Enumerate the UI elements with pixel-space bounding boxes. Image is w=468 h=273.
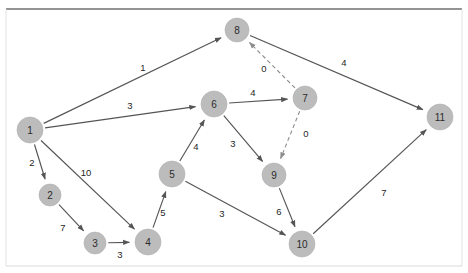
node-label-10: 10 <box>296 239 308 250</box>
node-label-5: 5 <box>169 169 175 180</box>
node-7[interactable]: 7 <box>293 86 317 110</box>
edge-weight-2-3: 7 <box>60 222 65 233</box>
edge-weight-5-10: 3 <box>219 208 224 219</box>
node-10[interactable]: 10 <box>289 231 315 257</box>
edge-1-to-4 <box>41 140 134 229</box>
edge-1-to-2 <box>34 145 45 180</box>
edge-weight-5-6: 4 <box>193 141 198 152</box>
node-label-1: 1 <box>27 125 33 136</box>
edge-weight-4-5: 5 <box>160 207 165 218</box>
edge-weight-3-4: 3 <box>117 249 122 260</box>
edge-10-to-11 <box>313 130 426 234</box>
edge-weight-9-10: 6 <box>276 206 281 217</box>
edge-weight-7-8: 0 <box>261 63 266 74</box>
node-label-3: 3 <box>92 238 98 249</box>
edge-weight-layer: 13210735434300467 <box>29 57 386 260</box>
edge-weight-1-8: 1 <box>140 62 145 73</box>
edge-weight-6-9: 3 <box>230 138 235 149</box>
edge-weight-8-11: 4 <box>341 57 346 68</box>
edge-7-to-9 <box>281 111 300 158</box>
edge-weight-6-7: 4 <box>250 87 255 98</box>
edge-weight-1-6: 3 <box>127 100 132 111</box>
edge-5-to-6 <box>180 120 205 161</box>
edge-9-to-10 <box>279 188 295 227</box>
edge-weight-10-11: 7 <box>381 187 386 198</box>
node-11[interactable]: 11 <box>427 104 453 130</box>
node-2[interactable]: 2 <box>39 184 61 206</box>
node-5[interactable]: 5 <box>159 161 185 187</box>
node-label-4: 4 <box>145 237 151 248</box>
edge-5-to-10 <box>185 181 285 235</box>
edge-weight-7-9: 0 <box>303 128 308 139</box>
node-3[interactable]: 3 <box>84 232 106 254</box>
node-9[interactable]: 9 <box>262 163 286 187</box>
edge-1-to-6 <box>45 107 195 128</box>
node-label-8: 8 <box>234 25 240 36</box>
node-label-2: 2 <box>47 190 53 201</box>
graph-diagram-canvas: 1234567891011 13210735434300467 <box>0 0 468 273</box>
edge-weight-1-4: 10 <box>81 167 92 178</box>
node-4[interactable]: 4 <box>135 229 161 255</box>
node-label-9: 9 <box>271 170 277 181</box>
edge-7-to-8 <box>250 43 295 88</box>
node-label-6: 6 <box>211 99 217 110</box>
node-label-7: 7 <box>302 93 308 104</box>
edge-weight-1-2: 2 <box>29 157 34 168</box>
node-1[interactable]: 1 <box>17 117 43 143</box>
node-6[interactable]: 6 <box>201 91 227 117</box>
node-8[interactable]: 8 <box>225 18 249 42</box>
edge-1-to-8 <box>44 38 221 124</box>
graph-svg: 1234567891011 13210735434300467 <box>0 0 468 273</box>
edge-6-to-7 <box>229 99 287 103</box>
node-label-11: 11 <box>435 112 446 123</box>
edge-8-to-11 <box>250 36 423 110</box>
